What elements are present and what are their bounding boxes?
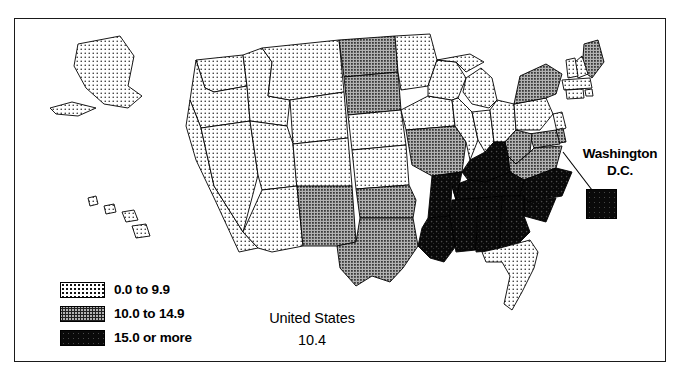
state-alabama — [476, 196, 502, 252]
legend-item-mid: 10.0 to 14.9 — [60, 304, 250, 323]
state-wyoming — [290, 92, 348, 144]
state-hawaii — [88, 196, 150, 238]
legend-label-low: 0.0 to 9.9 — [114, 282, 170, 297]
legend-swatch-mid — [60, 306, 105, 322]
legend-swatch-high — [60, 330, 105, 346]
state-rhode-island — [585, 89, 593, 96]
dc-callout-line1: Washington — [583, 146, 658, 161]
state-nebraska — [348, 110, 406, 150]
legend-item-high: 15.0 or more — [60, 328, 250, 347]
state-louisiana — [418, 216, 456, 262]
legend-label-mid: 10.0 to 14.9 — [114, 306, 184, 321]
state-new-york — [514, 64, 562, 104]
dc-callout-line2: D.C. — [607, 163, 633, 178]
state-montana — [262, 40, 344, 100]
legend-label-high: 15.0 or more — [114, 330, 192, 345]
state-new-mexico — [297, 186, 356, 246]
state-connecticut — [566, 89, 584, 99]
choropleth-map-figure: 0.0 to 9.9 10.0 to 14.9 15.0 or more Uni… — [0, 0, 680, 380]
state-maryland — [529, 130, 560, 148]
dc-callout-swatch — [586, 189, 617, 219]
state-oklahoma — [356, 185, 416, 218]
state-colorado — [293, 138, 352, 190]
state-iowa — [401, 96, 455, 130]
state-alaska — [74, 36, 142, 108]
state-florida — [482, 240, 538, 310]
state-north-dakota — [339, 36, 398, 77]
national-total-value: 10.4 — [228, 332, 396, 348]
national-total: United States 10.4 — [228, 310, 396, 348]
map-legend: 0.0 to 9.9 10.0 to 14.9 15.0 or more — [60, 280, 250, 352]
legend-item-low: 0.0 to 9.9 — [60, 280, 250, 299]
dc-callout-label: Washington D.C. — [566, 146, 674, 180]
state-kansas — [352, 145, 409, 189]
state-missouri — [406, 126, 466, 176]
legend-swatch-low — [60, 282, 105, 298]
national-total-label: United States — [228, 310, 396, 326]
state-michigan — [463, 68, 497, 108]
state-alaska-aleutians — [50, 102, 96, 116]
state-massachusetts — [562, 78, 592, 90]
state-south-dakota — [344, 72, 401, 115]
state-mississippi — [450, 198, 478, 252]
